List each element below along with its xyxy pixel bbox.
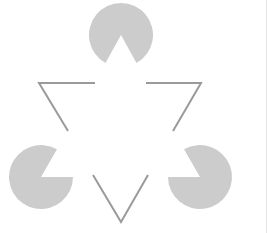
- outline-top-left-corner: [39, 83, 95, 131]
- inducer-bottom-left: [9, 145, 73, 209]
- outline-top-right-corner: [146, 83, 201, 131]
- inducer-bottom-right: [168, 145, 232, 209]
- right-border-line: [266, 0, 267, 233]
- kanizsa-figure: [0, 0, 268, 233]
- outline-bottom-corner: [93, 175, 148, 222]
- inducer-top: [89, 3, 153, 63]
